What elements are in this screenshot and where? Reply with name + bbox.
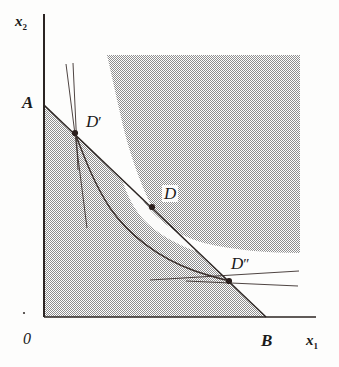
point-label-d: D: [162, 185, 178, 202]
origin-label: 0: [23, 331, 31, 347]
point-marker-d-double-prime[interactable]: [226, 278, 232, 284]
x-axis-label: x1: [306, 333, 318, 351]
x-intercept-label-b: B: [261, 332, 272, 349]
y-axis-label: x2: [15, 14, 27, 32]
point-label-d-double-prime: D″: [231, 255, 250, 272]
origin-tick-dot: [23, 312, 25, 314]
point-label-d-prime: D′: [86, 113, 102, 130]
point-marker-d[interactable]: [149, 204, 155, 210]
point-marker-d-prime[interactable]: [72, 130, 78, 136]
y-intercept-label-a: A: [22, 94, 33, 111]
